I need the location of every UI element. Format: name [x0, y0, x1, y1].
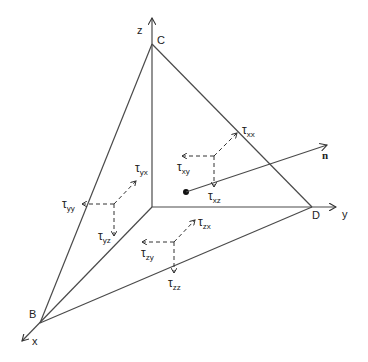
- svg-text:τyy: τyy: [62, 197, 75, 213]
- vertex-B-label: B: [29, 308, 36, 320]
- tau-yy-label: τyy: [62, 197, 75, 213]
- svg-text:τxy: τxy: [177, 160, 190, 176]
- svg-text:τzx: τzx: [198, 215, 211, 231]
- tau-yx-label: τyx: [135, 161, 148, 177]
- tau-zx-label: τzx: [198, 215, 211, 231]
- y-axis-label: y: [342, 208, 348, 220]
- tau-xy-label: τxy: [177, 160, 190, 176]
- edge-C-B: [40, 44, 152, 323]
- tau-yz-label: τyz: [98, 229, 111, 245]
- svg-text:τzy: τzy: [141, 246, 154, 262]
- svg-text:τyx: τyx: [135, 161, 148, 177]
- tau-zy-label: τzy: [141, 246, 154, 262]
- svg-text:τyz: τyz: [98, 229, 111, 245]
- x-axis-label: x: [32, 335, 38, 347]
- tau-xx-label: τxx: [242, 123, 255, 139]
- normal-vector: [183, 145, 327, 195]
- svg-text:τxx: τxx: [242, 123, 255, 139]
- normal-n-label: n: [322, 149, 328, 161]
- tau-zz-label: τzz: [168, 276, 181, 292]
- svg-text:τzz: τzz: [168, 276, 181, 292]
- stress-arrows-x-face: [182, 133, 237, 187]
- stress-arrows-z-face: [142, 220, 195, 273]
- x-axis: [22, 207, 152, 341]
- vertex-C-label: C: [157, 34, 165, 46]
- edge-C-D: [152, 44, 312, 207]
- edge-B-D: [40, 207, 312, 323]
- svg-text:τxz: τxz: [208, 189, 221, 205]
- z-axis-label: z: [137, 24, 143, 36]
- vertex-D-label: D: [312, 209, 320, 221]
- stress-arrows-y-face: [82, 181, 136, 236]
- tau-xz-label: τxz: [208, 189, 221, 205]
- stress-tetrahedron-diagram: z y x C D B n τxx τxy τxz τyx τyy τyz τz…: [0, 0, 368, 362]
